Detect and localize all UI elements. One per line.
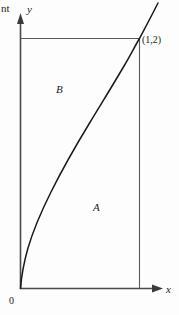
point-label: (1,2) — [142, 34, 161, 46]
region-label-a: A — [92, 201, 100, 213]
region-label-b: B — [56, 83, 63, 95]
figure-background — [0, 0, 179, 315]
y-axis-label: y — [26, 3, 32, 15]
figure-canvas: nt y x 0 B A (1,2) — [0, 0, 179, 315]
x-axis-label: x — [165, 283, 171, 295]
math-figure: nt y x 0 B A (1,2) — [0, 0, 179, 315]
page-text-fragment: nt — [1, 2, 10, 14]
origin-label: 0 — [9, 295, 14, 306]
